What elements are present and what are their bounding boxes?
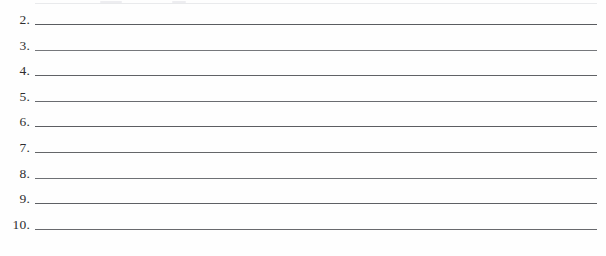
scan-smudge (172, 1, 186, 3)
numbered-line-item[interactable]: 4. (0, 62, 606, 88)
answer-write-in-rule[interactable] (35, 229, 597, 230)
line-number-label: 8. (0, 165, 30, 183)
numbered-line-item[interactable]: 9. (0, 190, 606, 216)
line-number-label: 5. (0, 88, 30, 106)
numbered-line-item[interactable]: 3. (0, 37, 606, 63)
numbered-line-item[interactable]: 8. (0, 165, 606, 191)
answer-write-in-rule[interactable] (35, 75, 597, 76)
worksheet-page: 2.3.4.5.6.7.8.9.10. (0, 0, 606, 256)
line-number-label: 2. (0, 11, 30, 29)
numbered-line-item[interactable]: 2. (0, 11, 606, 37)
clipped-top-row (0, 0, 606, 7)
line-number-label: 6. (0, 113, 30, 131)
answer-write-in-rule[interactable] (35, 203, 597, 204)
numbered-line-list: 2.3.4.5.6.7.8.9.10. (0, 11, 606, 241)
answer-write-in-rule[interactable] (35, 50, 597, 51)
numbered-line-item[interactable]: 5. (0, 88, 606, 114)
numbered-line-item[interactable]: 10. (0, 216, 606, 242)
numbered-line-item[interactable]: 6. (0, 113, 606, 139)
answer-write-in-rule[interactable] (35, 178, 597, 179)
answer-write-in-rule[interactable] (35, 101, 597, 102)
line-number-label: 7. (0, 139, 30, 157)
line-number-label: 9. (0, 190, 30, 208)
answer-write-in-rule[interactable] (35, 126, 597, 127)
line-number-label: 10. (0, 216, 30, 234)
numbered-line-item[interactable]: 7. (0, 139, 606, 165)
answer-write-in-rule[interactable] (35, 24, 597, 25)
line-number-label: 4. (0, 62, 30, 80)
line-number-label: 3. (0, 37, 30, 55)
answer-write-in-rule[interactable] (35, 152, 597, 153)
scan-smudge (100, 1, 122, 3)
clipped-top-rule (35, 3, 597, 4)
